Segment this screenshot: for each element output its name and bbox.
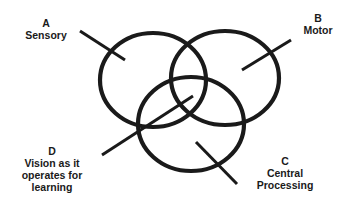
label-b-letter: B [293, 12, 343, 24]
label-c-central-processing: C Central Processing [250, 155, 320, 191]
label-d-text-3: learning [12, 181, 92, 193]
pointer-line-d [102, 96, 193, 155]
label-a-letter: A [16, 17, 76, 29]
pointer-line-b [242, 40, 291, 70]
label-d-text-1: Vision as it [12, 157, 92, 169]
label-d-text-2: operates for [12, 169, 92, 181]
label-a-text: Sensory [16, 29, 76, 41]
label-a-sensory: A Sensory [16, 17, 76, 41]
label-c-text-2: Processing [250, 179, 320, 191]
label-c-letter: C [250, 155, 320, 167]
label-b-text: Motor [293, 24, 343, 36]
label-b-motor: B Motor [293, 12, 343, 36]
label-d-vision: D Vision as it operates for learning [12, 145, 92, 193]
label-c-text-1: Central [250, 167, 320, 179]
pointer-line-c [196, 142, 237, 184]
label-d-letter: D [12, 145, 92, 157]
